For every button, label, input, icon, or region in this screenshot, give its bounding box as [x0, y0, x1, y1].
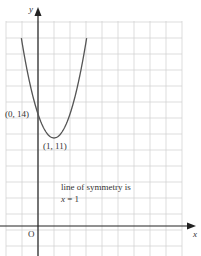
vertex-label: (1, 11) [43, 141, 67, 151]
y-axis [35, 7, 42, 256]
origin-label: O [28, 229, 35, 239]
x-axis-label: x [192, 229, 197, 239]
grid-lines [6, 21, 182, 256]
parabola-chart: y x O (0, 14) (1, 11) line of symmetry i… [0, 0, 201, 256]
y-axis-label: y [28, 4, 33, 14]
symmetry-label-line1: line of symmetry is [61, 182, 131, 192]
y-intercept-label: (0, 14) [5, 109, 29, 119]
y-axis-arrow-icon [35, 7, 42, 16]
symmetry-label-line2: x = 1 [60, 194, 79, 204]
